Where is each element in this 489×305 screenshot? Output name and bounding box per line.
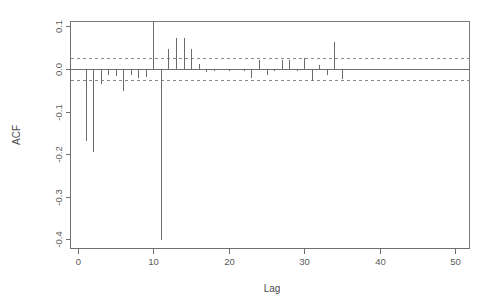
x-axis-tick-label: 30 — [299, 256, 310, 267]
y-axis-tick-label: 0.0 — [53, 63, 64, 76]
y-axis: 0.10.0-0.1-0.2-0.3-0.4 — [53, 20, 70, 249]
x-axis-tick-label: 0 — [76, 256, 81, 267]
x-axis-tick-label: 10 — [148, 256, 159, 267]
y-axis-tick-label: -0.4 — [53, 231, 64, 247]
x-axis-title: Lag — [264, 283, 281, 294]
acf-spikes — [87, 22, 343, 240]
y-axis-tick-label: -0.2 — [53, 146, 64, 162]
y-axis-tick-label: -0.3 — [53, 189, 64, 205]
x-axis: 01020304050 — [71, 249, 470, 267]
acf-plot-figure: 0.10.0-0.1-0.2-0.3-0.4 01020304050 ACF L… — [0, 0, 489, 305]
plot-box-border — [71, 22, 470, 249]
y-axis-title: ACF — [11, 125, 22, 145]
reference-lines — [71, 59, 470, 81]
x-axis-tick-label: 50 — [450, 256, 461, 267]
plot-frame — [71, 22, 470, 249]
x-axis-tick-label: 20 — [224, 256, 235, 267]
y-axis-tick-label: 0.1 — [53, 20, 64, 33]
acf-plot-svg: 0.10.0-0.1-0.2-0.3-0.4 01020304050 ACF L… — [0, 0, 489, 305]
y-axis-tick-label: -0.1 — [53, 104, 64, 120]
x-axis-tick-label: 40 — [375, 256, 386, 267]
